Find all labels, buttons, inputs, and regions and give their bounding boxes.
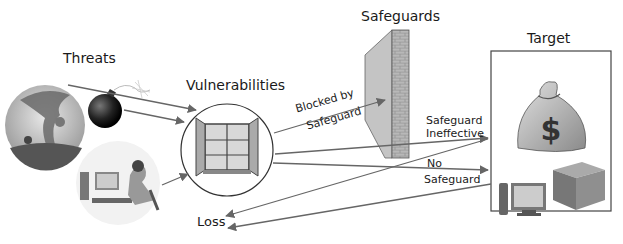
brick-wall-icon [365, 30, 409, 158]
tornado-icon [5, 85, 85, 171]
safeguards-title: Safeguards [361, 8, 440, 24]
loss-arrow-2 [228, 184, 491, 228]
ineffective-label-2: Ineffective [426, 127, 484, 140]
threat3-arrow [162, 174, 188, 185]
svg-text:$: $ [541, 112, 562, 147]
no-safeguard-label-1: No [427, 157, 442, 170]
threat2-arrow [124, 110, 184, 122]
loss-label: Loss [197, 214, 226, 229]
threat1-arrow [68, 85, 196, 110]
vulnerabilities-title: Vulnerabilities [186, 77, 285, 93]
target-title: Target [527, 30, 570, 46]
threats-title: Threats [63, 50, 116, 66]
bomb-icon [88, 80, 150, 128]
hacker-icon [76, 141, 160, 225]
open-window-icon [181, 104, 273, 196]
no-safeguard-arrow [273, 163, 488, 170]
ineffective-label-1: Safeguard [426, 114, 482, 127]
no-safeguard-label-2: Safeguard [424, 173, 480, 186]
